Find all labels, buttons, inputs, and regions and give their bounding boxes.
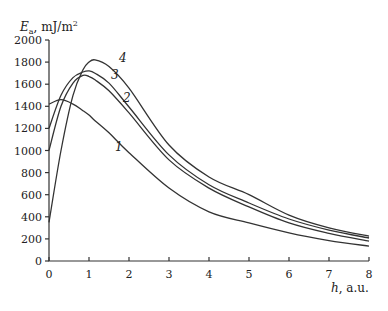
y-tick-label: 1400 <box>14 100 42 113</box>
series-label-1: 1 <box>115 140 123 154</box>
x-axis-title-var: h <box>331 281 339 295</box>
x-tick-label: 2 <box>126 268 133 281</box>
y-axis-title-unit: , mJ/m <box>34 20 74 34</box>
series-label-3: 3 <box>111 68 119 82</box>
x-tick-label: 5 <box>246 268 253 281</box>
chart: Ea, mJ/m2 020040060080010001200140016001… <box>0 0 388 311</box>
y-tick-label: 2000 <box>14 34 42 47</box>
y-tick-label: 1800 <box>14 56 42 69</box>
curve-3 <box>49 71 369 238</box>
curve-1 <box>49 100 369 246</box>
x-tick-label: 3 <box>166 268 173 281</box>
svg-text:h, a.u.: h, a.u. <box>331 281 369 295</box>
x-tick-label: 6 <box>286 268 293 281</box>
series-label-2: 2 <box>122 91 131 105</box>
x-tick-label: 0 <box>46 268 53 281</box>
curves <box>49 60 369 246</box>
x-axis-title-unit: , a.u. <box>339 281 369 295</box>
x-tick-label: 4 <box>206 268 213 281</box>
x-axis-title: h, a.u. <box>331 281 369 295</box>
x-tick-label: 1 <box>86 268 93 281</box>
y-tick-label: 1200 <box>14 122 42 135</box>
y-tick-label: 400 <box>21 211 42 224</box>
series-label-4: 4 <box>118 51 127 65</box>
curve-4 <box>49 60 369 236</box>
y-axis-ticks: 0200400600800100012001400160018002000 <box>14 34 49 268</box>
y-axis-title-sup: 2 <box>73 19 78 28</box>
curve-2 <box>49 75 369 241</box>
y-tick-label: 1600 <box>14 78 42 91</box>
y-tick-label: 200 <box>21 233 42 246</box>
x-tick-label: 8 <box>366 268 373 281</box>
y-tick-label: 0 <box>35 255 42 268</box>
y-axis-title-main: E <box>19 20 29 34</box>
y-tick-label: 600 <box>21 189 42 202</box>
y-tick-label: 1000 <box>14 145 42 158</box>
y-tick-label: 800 <box>21 167 42 180</box>
x-tick-label: 7 <box>326 268 333 281</box>
